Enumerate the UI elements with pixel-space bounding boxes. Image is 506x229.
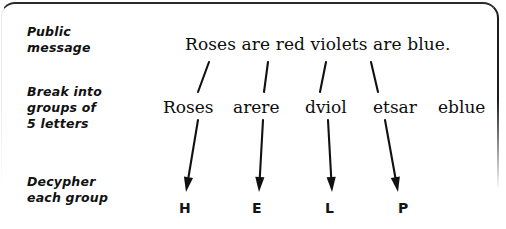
arrow-shaft-3 xyxy=(328,120,331,177)
cipher-diagram: Publicmessage Break intogroups of5 lette… xyxy=(0,0,506,229)
arrow-shaft-1 xyxy=(188,120,198,177)
decyphered-letter-3: L xyxy=(325,200,334,216)
decyphered-letter-4: P xyxy=(398,200,408,216)
arrow-head-1 xyxy=(184,176,193,192)
decyphered-letter-2: E xyxy=(252,200,262,216)
decyphered-letter-1: H xyxy=(179,200,191,216)
arrow-head-2 xyxy=(255,177,264,192)
arrow-shaft-4 xyxy=(385,120,395,177)
arrow-connector-layer xyxy=(0,0,506,229)
arrow-head-3 xyxy=(327,177,336,192)
arrow-shaft-2 xyxy=(260,120,263,177)
down-arrows xyxy=(184,120,400,192)
arrow-head-4 xyxy=(391,176,400,192)
